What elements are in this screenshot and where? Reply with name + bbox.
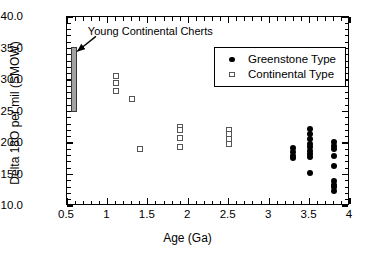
x-axis-minor-tick bbox=[212, 17, 213, 21]
y-axis-minor-tick bbox=[67, 124, 71, 125]
x-axis-minor-tick bbox=[236, 201, 237, 205]
y-axis-tick bbox=[67, 142, 73, 143]
y-axis-minor-tick bbox=[67, 136, 71, 137]
x-axis-tick bbox=[66, 17, 67, 23]
data-point bbox=[177, 135, 183, 141]
y-axis-minor-tick bbox=[345, 136, 349, 137]
legend-item-greenstone-type: Greenstone Type bbox=[222, 52, 336, 67]
y-axis-tick bbox=[342, 16, 348, 17]
x-axis-tick-label: 1.5 bbox=[139, 208, 155, 220]
young-continental-cherts-band bbox=[71, 47, 77, 113]
y-axis-minor-tick bbox=[345, 161, 349, 162]
y-axis-minor-tick bbox=[67, 187, 71, 188]
y-axis-minor-tick bbox=[345, 187, 349, 188]
filled-circle-icon bbox=[222, 57, 242, 63]
data-point bbox=[113, 88, 119, 94]
x-axis-minor-tick bbox=[301, 17, 302, 21]
x-axis-minor-tick bbox=[277, 17, 278, 21]
data-point bbox=[113, 80, 119, 86]
data-point bbox=[137, 146, 143, 152]
data-point bbox=[307, 154, 313, 160]
y-axis-minor-tick bbox=[345, 117, 349, 118]
x-axis-minor-tick bbox=[244, 17, 245, 21]
x-axis-tick bbox=[309, 17, 310, 23]
x-axis-minor-tick bbox=[164, 201, 165, 205]
data-point bbox=[331, 146, 337, 152]
x-axis-tick bbox=[269, 17, 270, 23]
y-axis-minor-tick bbox=[345, 199, 349, 200]
x-axis-minor-tick bbox=[333, 201, 334, 205]
x-axis-minor-tick bbox=[261, 201, 262, 205]
y-axis-minor-tick bbox=[67, 193, 71, 194]
y-axis-tick-label: 10.0 bbox=[1, 199, 23, 211]
annotation-label: Young Continental Cherts bbox=[88, 25, 213, 37]
legend-item-continental-type: Continental Type bbox=[222, 67, 336, 82]
x-axis-minor-tick bbox=[244, 201, 245, 205]
x-axis-minor-tick bbox=[212, 201, 213, 205]
plot-area bbox=[66, 16, 349, 205]
x-axis-tick bbox=[228, 17, 229, 23]
x-axis-minor-tick bbox=[325, 201, 326, 205]
y-axis-minor-tick bbox=[67, 29, 71, 30]
y-axis-minor-tick bbox=[67, 155, 71, 156]
y-axis-minor-tick bbox=[67, 42, 71, 43]
x-axis-minor-tick bbox=[220, 201, 221, 205]
data-point bbox=[226, 141, 232, 147]
x-axis-minor-tick bbox=[341, 17, 342, 21]
x-axis-minor-tick bbox=[75, 17, 76, 21]
chart-figure: Delta 18O per mil (SMOW) Age (Ga) Greens… bbox=[0, 0, 375, 257]
x-axis-minor-tick bbox=[99, 201, 100, 205]
x-axis-minor-tick bbox=[317, 17, 318, 21]
y-axis-minor-tick bbox=[67, 149, 71, 150]
x-axis-tick bbox=[107, 17, 108, 23]
x-axis-minor-tick bbox=[204, 17, 205, 21]
x-axis-minor-tick bbox=[91, 201, 92, 205]
y-axis-minor-tick bbox=[345, 98, 349, 99]
y-axis-minor-tick bbox=[67, 117, 71, 118]
data-point bbox=[331, 153, 337, 159]
x-axis-tick bbox=[309, 198, 310, 204]
x-axis-minor-tick bbox=[180, 201, 181, 205]
y-axis-tick bbox=[342, 142, 348, 143]
x-axis-tick-label: 1 bbox=[103, 208, 109, 220]
x-axis-tick bbox=[349, 198, 350, 204]
y-axis-minor-tick bbox=[345, 168, 349, 169]
x-axis-minor-tick bbox=[196, 17, 197, 21]
x-axis-minor-tick bbox=[155, 201, 156, 205]
x-axis-minor-tick bbox=[341, 201, 342, 205]
x-axis-title: Age (Ga) bbox=[0, 231, 375, 245]
x-axis-minor-tick bbox=[115, 201, 116, 205]
data-point bbox=[331, 163, 337, 169]
x-axis-minor-tick bbox=[196, 201, 197, 205]
x-axis-tick bbox=[147, 198, 148, 204]
legend-label: Continental Type bbox=[242, 68, 334, 80]
y-axis-tick bbox=[67, 16, 73, 17]
x-axis-minor-tick bbox=[325, 17, 326, 21]
y-axis-tick-label: 15.0 bbox=[1, 168, 23, 180]
y-axis-tick-label: 20.0 bbox=[1, 136, 23, 148]
x-axis-tick bbox=[188, 17, 189, 23]
x-axis-minor-tick bbox=[252, 201, 253, 205]
data-point bbox=[307, 170, 313, 176]
x-axis-minor-tick bbox=[123, 17, 124, 21]
x-axis-minor-tick bbox=[99, 17, 100, 21]
y-axis-minor-tick bbox=[67, 161, 71, 162]
x-axis-minor-tick bbox=[236, 17, 237, 21]
x-axis-minor-tick bbox=[164, 17, 165, 21]
y-axis-minor-tick bbox=[345, 155, 349, 156]
y-axis-tick bbox=[342, 174, 348, 175]
x-axis-minor-tick bbox=[75, 201, 76, 205]
y-axis-minor-tick bbox=[345, 35, 349, 36]
y-axis-tick-label: 40.0 bbox=[1, 10, 23, 22]
open-square-icon bbox=[222, 72, 242, 78]
y-axis-minor-tick bbox=[345, 42, 349, 43]
y-axis-tick bbox=[67, 205, 73, 206]
y-axis-minor-tick bbox=[345, 23, 349, 24]
data-point bbox=[177, 127, 183, 133]
y-axis-minor-tick bbox=[67, 130, 71, 131]
x-axis-minor-tick bbox=[293, 17, 294, 21]
y-axis-tick-label: 25.0 bbox=[1, 105, 23, 117]
data-point bbox=[177, 144, 183, 150]
data-point bbox=[290, 155, 296, 161]
x-axis-minor-tick bbox=[180, 17, 181, 21]
